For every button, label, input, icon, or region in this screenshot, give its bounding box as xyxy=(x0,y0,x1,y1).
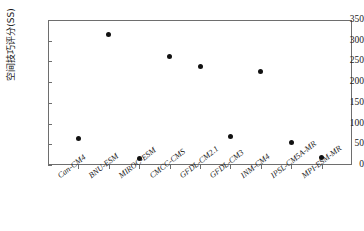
y-tick-mark xyxy=(48,41,52,42)
data-point xyxy=(289,140,294,145)
y-tick-mark xyxy=(48,165,52,166)
scatter-chart: 空间技巧评分(SS) 050100150200250300350 Can-CM4… xyxy=(0,0,364,231)
y-tick-label: 100 xyxy=(322,119,364,129)
y-tick-mark xyxy=(48,103,52,104)
y-tick-mark xyxy=(48,20,52,21)
y-tick-label: 250 xyxy=(322,56,364,66)
y-tick-mark xyxy=(48,124,52,125)
y-tick-label: 300 xyxy=(322,36,364,46)
data-point xyxy=(137,156,142,161)
y-tick-label: 150 xyxy=(322,98,364,108)
y-tick-mark xyxy=(48,82,52,83)
data-point xyxy=(198,64,203,69)
y-tick-label: 50 xyxy=(322,139,364,149)
y-tick-mark xyxy=(48,144,52,145)
y-tick-mark xyxy=(48,61,52,62)
y-tick-label: 350 xyxy=(322,15,364,25)
y-tick-label: 200 xyxy=(322,77,364,87)
y-axis-title: 空间技巧评分(SS) xyxy=(4,0,17,100)
